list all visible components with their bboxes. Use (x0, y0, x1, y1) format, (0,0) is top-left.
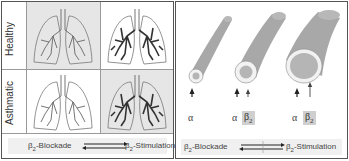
stimulation-label: β2-Stimulation (286, 142, 336, 153)
stimulation-label: β2-Stimulation (125, 141, 175, 152)
lungs-illustration (26, 2, 173, 133)
alpha-label: α (292, 112, 297, 123)
airway-tubes-illustration (176, 2, 347, 97)
wide-airway-tube (286, 10, 340, 83)
right-footer: β2-Blockade β2-Stimulation (181, 139, 342, 155)
grid-divider (2, 133, 173, 134)
row-label-healthy: Healthy (4, 8, 24, 70)
alpha-label: α (188, 112, 193, 123)
blockade-label: β2-Blockade (184, 142, 228, 153)
bidirectional-arrows-icon (82, 140, 128, 152)
airway-diameter-panel: α α β2 α β2 β2-Blockade β2-Stimulation (175, 1, 348, 159)
lung-comparison-panel: Healthy Asthmatic (1, 1, 174, 159)
narrow-airway-tube (189, 16, 232, 83)
alpha-arrow-icon (295, 88, 300, 97)
beta2-arrow-icon (308, 82, 312, 97)
blockade-label: β2-Blockade (28, 141, 72, 152)
medium-airway-tube (235, 12, 286, 83)
beta2-label: β2 (242, 111, 255, 125)
beta2-label: β2 (303, 111, 316, 125)
alpha-arrow-icon (190, 88, 195, 97)
bidirectional-arrows-icon (239, 141, 285, 153)
row-label-asthmatic: Asthmatic (4, 72, 24, 134)
beta2-arrow-icon (246, 89, 250, 97)
alpha-arrow-icon (235, 88, 240, 97)
alpha-label: α (232, 112, 237, 123)
left-footer: β2-Blockade β2-Stimulation (8, 138, 167, 154)
